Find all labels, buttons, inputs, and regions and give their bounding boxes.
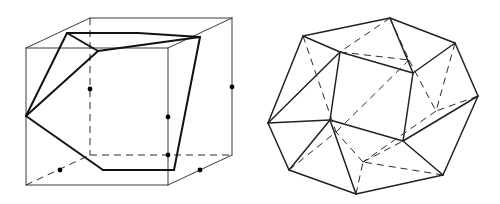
cubocta-connector-8 <box>268 52 340 123</box>
cubocta-hidden-back-square-2 <box>409 60 436 111</box>
cubocta-front-square-right <box>403 73 413 141</box>
cubocta-hidden-connector-10 <box>363 141 403 162</box>
hexagonal-cross-section <box>26 33 200 170</box>
cubocta-edge-outer-6 <box>356 175 443 194</box>
cubocta-connector-9 <box>268 120 330 123</box>
cube-edge-midpoint-dots <box>58 85 235 173</box>
cubocta-connector-6 <box>330 120 356 194</box>
cubocta-connector-1 <box>303 36 340 52</box>
midpoint-dot <box>88 87 93 92</box>
midpoint-dot <box>58 168 63 173</box>
cubocta-edge-outer-4 <box>455 43 478 96</box>
hexagon-chord-2 <box>98 37 200 51</box>
cubocta-edge-outer-7 <box>289 170 356 194</box>
cubocta-hidden-back-square-1 <box>336 60 409 132</box>
cubocta-connector-4 <box>403 96 478 141</box>
hexagon-edge-3 <box>174 37 200 170</box>
cubocta-hidden-connector-8 <box>340 52 409 60</box>
cubocta-connector-3 <box>413 43 455 73</box>
midpoint-dot <box>198 168 203 173</box>
midpoint-dot <box>230 85 235 90</box>
cuboctahedron-visible-edges <box>268 18 478 194</box>
cubocta-hidden-connector-6 <box>356 162 363 194</box>
cubocta-connector-5 <box>403 141 443 175</box>
cubocta-edge-outer-1 <box>268 36 303 123</box>
cuboctahedron-hidden-edges <box>289 18 478 194</box>
cubocta-hidden-connector-7 <box>289 132 336 170</box>
cubocta-hidden-back-square-3 <box>363 111 436 162</box>
midpoint-dot <box>166 153 171 158</box>
cubocta-edge-outer-3 <box>390 18 455 43</box>
cuboctahedron <box>268 18 478 194</box>
cubocta-front-square-bottom <box>330 120 403 141</box>
cubocta-front-square-top <box>340 52 413 73</box>
cubocta-hidden-connector-3 <box>436 43 455 111</box>
midpoint-dot <box>166 115 171 120</box>
cubocta-edge-outer-8 <box>268 123 289 170</box>
cubocta-connector-7 <box>289 120 330 170</box>
cube-with-hexagonal-cross-section <box>26 18 234 185</box>
hexagon-edge-2 <box>138 33 200 37</box>
cubocta-edge-outer-5 <box>443 96 478 175</box>
cube-hidden-edges <box>26 18 232 185</box>
hexagon-edge-5 <box>26 116 103 170</box>
geometry-figure-canvas <box>0 0 500 204</box>
cube-visible-edges <box>26 18 232 185</box>
hexagon-chord-3 <box>26 51 98 116</box>
cube-edge-top-right-diag <box>168 18 232 48</box>
cubocta-front-square-left <box>330 52 340 120</box>
